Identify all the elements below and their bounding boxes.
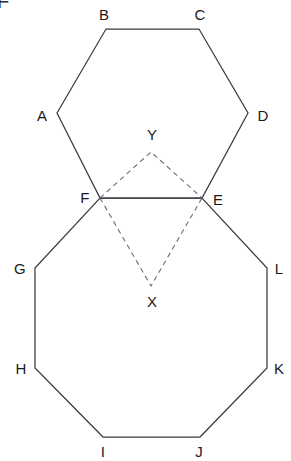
vertex-label-d: D — [257, 108, 268, 123]
diagram-page: F ABCDEFGHIJKLXY — [0, 0, 291, 461]
hexagon — [57, 29, 248, 198]
vertex-label-l: L — [275, 261, 284, 276]
vertex-label-c: C — [194, 7, 205, 22]
geometry-diagram — [0, 0, 291, 461]
dashed-shape-group — [100, 152, 202, 286]
octagon — [35, 198, 267, 437]
vertex-label-f: F — [80, 190, 89, 205]
solid-shape-group — [35, 29, 267, 437]
lower-dashed-triangle — [100, 198, 202, 286]
upper-dashed-triangle — [100, 152, 202, 198]
vertex-label-k: K — [274, 361, 284, 376]
vertex-label-h: H — [15, 361, 26, 376]
vertex-label-a: A — [37, 108, 47, 123]
vertex-label-b: B — [99, 7, 109, 22]
vertex-label-j: J — [195, 444, 203, 459]
vertex-label-g: G — [14, 261, 26, 276]
vertex-label-i: I — [101, 444, 105, 459]
vertex-label-x: X — [147, 294, 157, 309]
vertex-label-y: Y — [147, 127, 157, 142]
vertex-label-e: E — [213, 192, 223, 207]
